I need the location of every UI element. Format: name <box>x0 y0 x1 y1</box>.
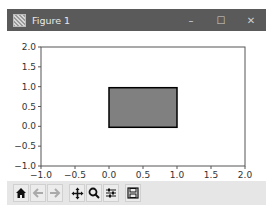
window-titlebar: Figure 1 – ☐ ✕ <box>7 9 266 31</box>
y-axis: −1.0−0.50.00.51.01.52.0 <box>14 42 41 171</box>
home-button[interactable] <box>13 184 29 202</box>
x-tick-label: 1.5 <box>204 170 218 180</box>
close-button[interactable]: ✕ <box>236 15 266 26</box>
y-tick-label: 1.5 <box>22 62 36 72</box>
sliders-icon <box>105 187 117 199</box>
configure-subplots-button[interactable] <box>103 184 119 202</box>
save-button[interactable] <box>125 184 141 202</box>
back-button[interactable] <box>30 184 46 202</box>
floppy-disk-icon <box>127 187 139 199</box>
arrow-left-icon <box>32 187 44 199</box>
x-tick-label: 0.5 <box>136 170 150 180</box>
arrow-right-icon <box>49 187 61 199</box>
magnifier-icon <box>88 187 100 199</box>
forward-button[interactable] <box>47 184 63 202</box>
navigation-toolbar <box>7 181 266 205</box>
x-tick-label: −1.0 <box>30 170 52 180</box>
rectangle-patch <box>109 88 177 128</box>
y-tick-label: −0.5 <box>14 141 36 151</box>
y-tick-label: 0.5 <box>22 102 36 112</box>
x-tick-label: −0.5 <box>64 170 86 180</box>
window-title: Figure 1 <box>32 15 176 26</box>
y-tick-label: 2.0 <box>22 42 37 52</box>
x-tick-label: 0.0 <box>102 170 117 180</box>
x-axis: −1.0−0.50.00.51.01.52.0 <box>30 166 252 180</box>
maximize-button[interactable]: ☐ <box>206 15 236 26</box>
y-tick-label: 0.0 <box>22 121 37 131</box>
pan-button[interactable] <box>69 184 85 202</box>
x-tick-label: 2.0 <box>238 170 253 180</box>
y-tick-label: 1.0 <box>22 82 37 92</box>
zoom-button[interactable] <box>86 184 102 202</box>
minimize-button[interactable]: – <box>176 15 206 26</box>
plot-svg: −1.0−0.50.00.51.01.52.0 −1.0−0.50.00.51.… <box>7 31 266 181</box>
home-icon <box>15 187 27 199</box>
app-icon <box>13 14 26 27</box>
move-icon <box>71 187 84 200</box>
x-tick-label: 1.0 <box>170 170 185 180</box>
figure-canvas[interactable]: −1.0−0.50.00.51.01.52.0 −1.0−0.50.00.51.… <box>7 31 266 181</box>
